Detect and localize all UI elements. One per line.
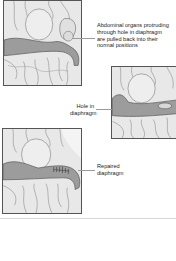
leader-line-repaired bbox=[78, 170, 95, 171]
label-line: diaphragm bbox=[97, 170, 123, 177]
label-line: diaphragm bbox=[70, 110, 94, 117]
leader-line-hole bbox=[96, 109, 112, 110]
label-hole-in-diaphragm: Hole in diaphragm bbox=[70, 103, 94, 117]
illustration-panel-hole-in-diaphragm bbox=[111, 66, 176, 139]
label-line: Hole in bbox=[70, 103, 94, 110]
divider-line bbox=[0, 218, 176, 219]
organs-protruding-illustration bbox=[4, 1, 81, 85]
label-repaired-diaphragm: Repaired diaphragm bbox=[97, 163, 123, 177]
label-line: through hole in diaphragm bbox=[97, 29, 169, 36]
label-line: normal positions bbox=[97, 42, 169, 49]
illustration-panel-organs-pulled-back bbox=[3, 0, 82, 86]
label-line: are pulled back into their bbox=[97, 36, 169, 43]
label-line: Repaired bbox=[97, 163, 123, 170]
label-line: Abdominal organs protruding bbox=[97, 22, 169, 29]
diaphragm-hole-illustration bbox=[112, 67, 176, 138]
illustration-panel-repaired-diaphragm bbox=[2, 128, 82, 214]
label-organs-pulled-back: Abdominal organs protruding through hole… bbox=[97, 22, 169, 49]
leader-line-organs bbox=[72, 38, 95, 39]
repaired-diaphragm-illustration bbox=[3, 129, 81, 213]
